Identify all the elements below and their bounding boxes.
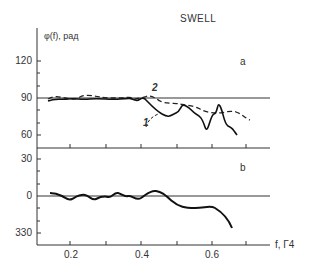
y-tick-60: 60: [4, 129, 32, 140]
y-tick-330: 330: [4, 227, 32, 238]
ticks-x-a: [70, 144, 246, 148]
y-tick-90: 90: [4, 92, 32, 103]
y-tick-120: 120: [4, 55, 32, 66]
ticks-x-b: [70, 241, 246, 245]
x-tick-0.2: 0.2: [56, 249, 86, 260]
x-tick-0.6: 0.6: [197, 249, 227, 260]
panel-label-a: a: [240, 56, 246, 67]
chart-title: SWELL: [180, 13, 216, 24]
y-tick-30: 30: [4, 153, 32, 164]
y-tick-0: 0: [4, 190, 32, 201]
curve-label-1: 1: [143, 117, 149, 128]
x-axis-label: f, Γ4: [275, 239, 294, 250]
y-axis-label: φ(f), paд: [44, 31, 79, 41]
x-tick-0.4: 0.4: [127, 249, 157, 260]
curve-label-2: 2: [152, 82, 158, 93]
panel-label-b: b: [240, 162, 246, 173]
